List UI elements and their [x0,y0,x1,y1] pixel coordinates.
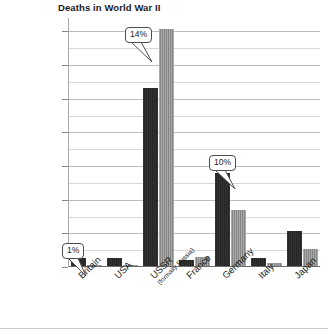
callout-pointer-icon [211,167,251,197]
bar-group [71,18,102,266]
percent-callout: 14% [125,27,152,43]
callout-pointer-icon [127,39,167,69]
bar-group [179,18,210,266]
bar-series-layer [68,18,320,267]
bar-group [287,18,318,266]
percent-callout: 1% [62,243,84,259]
bar [287,231,302,266]
percent-callout: 10% [209,155,236,171]
callout-pointer-icon [64,255,104,285]
bar [143,88,158,266]
bar-group [215,18,246,266]
bottom-divider [0,328,328,329]
bar-group [251,18,282,266]
chart-title: Deaths in World War II [58,2,161,13]
chart-screenshot: Deaths in World War II 02,000,0004,000,0… [0,0,328,335]
